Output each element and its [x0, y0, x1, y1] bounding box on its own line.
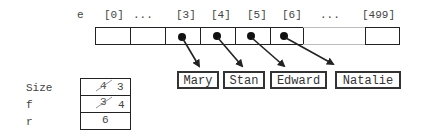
strikethrough-icon	[96, 80, 112, 108]
strikethrough-marks	[0, 0, 423, 139]
